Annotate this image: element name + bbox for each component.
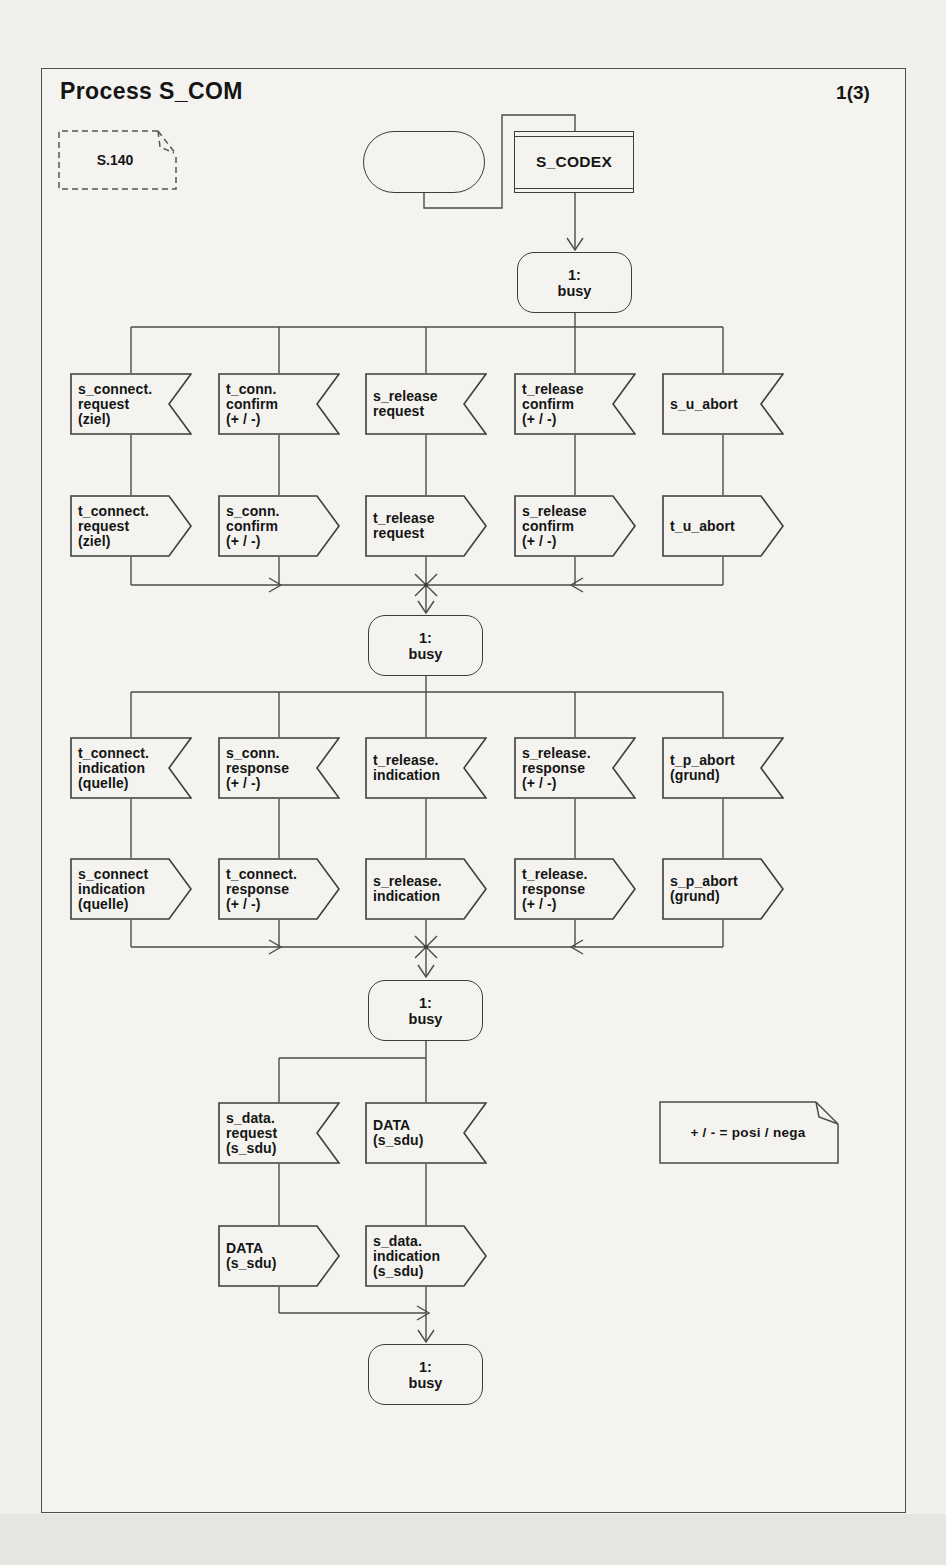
output-s_release-confirm: s_releaseconfirm(+ / -)	[514, 495, 636, 557]
input-s_release-response: s_release.response(+ / -)	[514, 737, 636, 799]
state-number: 1:	[419, 630, 432, 646]
input-t_conn-confirm: t_conn.confirm(+ / -)	[218, 373, 340, 435]
state-busy-1: 1: busy	[517, 252, 632, 313]
state-name: busy	[409, 1011, 443, 1027]
procedure-label: S_CODEX	[536, 153, 612, 171]
note-text: + / - = posi / nega	[664, 1102, 832, 1162]
page-title: Process S_COM	[60, 78, 243, 105]
comment-ref-label: S.140	[59, 131, 171, 189]
output-s_data-indication: s_data.indication(s_sdu)	[365, 1225, 487, 1287]
input-t_connect-indication: t_connect.indication(quelle)	[70, 737, 192, 799]
output-t_u_abort: t_u_abort	[662, 495, 784, 557]
output-s_p_abort: s_p_abort(grund)	[662, 858, 784, 920]
output-t_connect-response: t_connect.response(+ / -)	[218, 858, 340, 920]
state-number: 1:	[419, 995, 432, 1011]
start-symbol	[363, 131, 485, 193]
state-name: busy	[558, 283, 592, 299]
state-name: busy	[409, 646, 443, 662]
state-busy-4: 1: busy	[368, 1344, 483, 1405]
input-s_u_abort: s_u_abort	[662, 373, 784, 435]
input-t_release-confirm: t_releaseconfirm(+ / -)	[514, 373, 636, 435]
state-name: busy	[409, 1375, 443, 1391]
output-t_release-response: t_release.response(+ / -)	[514, 858, 636, 920]
input-s_conn-response: s_conn.response(+ / -)	[218, 737, 340, 799]
input-data: DATA(s_sdu)	[365, 1102, 487, 1164]
input-s_connect-request: s_connect.request(ziel)	[70, 373, 192, 435]
input-t_release-indication: t_release.indication	[365, 737, 487, 799]
page-number: 1(3)	[810, 82, 896, 104]
procedure-box: S_CODEX	[514, 131, 634, 193]
state-number: 1:	[568, 267, 581, 283]
sdl-diagram-page: Process S_COM 1(3) S.140 S_CODEX 1: busy…	[0, 0, 946, 1565]
output-t_connect-request: t_connect.request(ziel)	[70, 495, 192, 557]
output-data: DATA(s_sdu)	[218, 1225, 340, 1287]
output-t_release-request: t_releaserequest	[365, 495, 487, 557]
output-s_release-indication: s_release.indication	[365, 858, 487, 920]
state-busy-2: 1: busy	[368, 615, 483, 676]
output-s_conn-confirm: s_conn.confirm(+ / -)	[218, 495, 340, 557]
input-s_data-request: s_data.request(s_sdu)	[218, 1102, 340, 1164]
input-t_p_abort: t_p_abort(grund)	[662, 737, 784, 799]
input-s_release-request: s_releaserequest	[365, 373, 487, 435]
procedure-box-double-line-top	[514, 136, 634, 137]
procedure-box-double-line-bottom	[514, 188, 634, 189]
scan-shadow	[0, 1514, 946, 1565]
state-busy-3: 1: busy	[368, 980, 483, 1041]
output-s_connect-indication: s_connectindication(quelle)	[70, 858, 192, 920]
state-number: 1:	[419, 1359, 432, 1375]
